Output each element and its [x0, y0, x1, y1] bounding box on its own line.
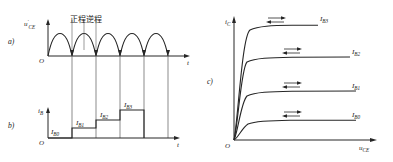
- panel-a-x-axis-label: t: [187, 59, 190, 67]
- panel-c-tag: c): [207, 77, 213, 86]
- step-label-ib0: IB0: [50, 128, 60, 137]
- panel-c-x-axis-label: uCE: [359, 144, 370, 153]
- panel-a-y-axis-label: u'CE: [24, 19, 36, 29]
- label-layer: u'CE a) O t 正程 逆程 iB b) O t IB0 IB1 IB2 …: [0, 0, 393, 162]
- panel-a-tag: a): [8, 37, 15, 46]
- curve-label-ib1: IB1: [351, 82, 361, 91]
- annotation-forward-stroke: 正程: [70, 15, 86, 24]
- panel-b-origin: O: [39, 139, 44, 147]
- step-label-ib1: IB1: [75, 119, 85, 128]
- panel-b-x-axis-label: t: [177, 141, 180, 149]
- curve-label-ib2: IB2: [351, 48, 361, 57]
- panel-a-origin: O: [39, 57, 44, 65]
- panel-c-origin: O: [225, 142, 230, 150]
- curve-label-ib3: IB3: [319, 15, 329, 24]
- step-label-ib2: IB2: [99, 111, 109, 120]
- panel-b-y-axis-label: iB: [38, 107, 44, 116]
- step-label-ib3: IB3: [123, 101, 133, 110]
- panel-b-tag: b): [8, 121, 15, 130]
- annotation-retrace-stroke: 逆程: [86, 14, 102, 24]
- figure-root: u'CE a) O t 正程 逆程 iB b) O t IB0 IB1 IB2 …: [0, 0, 393, 162]
- curve-label-ib0: IB0: [351, 111, 361, 120]
- panel-c-y-axis-label: iC: [225, 18, 231, 27]
